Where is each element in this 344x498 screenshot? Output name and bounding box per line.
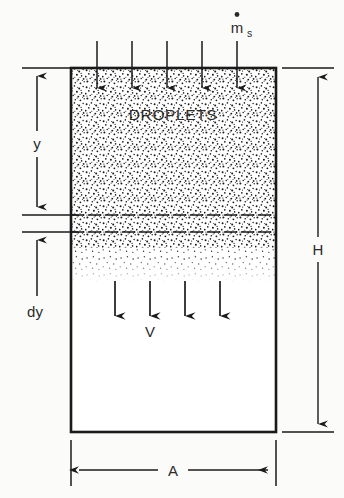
control-volume-diagram: m s DROPLETS V y [0,0,344,498]
dy-dimension-label: dy [27,303,43,320]
H-dimension-label: H [313,241,324,258]
dimension-A: A [71,440,276,486]
A-dimension-label: A [168,462,178,479]
dimension-y: y [22,68,78,215]
mdot-overdot-icon [235,12,240,17]
inlet-flux-subscript: s [247,27,252,39]
inlet-flux-symbol: m [231,19,244,36]
dimension-H: H [282,68,334,432]
inlet-mass-flux-label: m s [231,12,253,39]
figure-root: m s DROPLETS V y [0,0,344,498]
droplets-region-label: DROPLETS [129,106,217,123]
droplet-stipple-fade [71,248,276,282]
y-dimension-label: y [33,135,41,152]
velocity-label: V [145,323,155,340]
dimension-dy: dy [22,232,78,320]
droplet-stipple-region [71,68,276,248]
